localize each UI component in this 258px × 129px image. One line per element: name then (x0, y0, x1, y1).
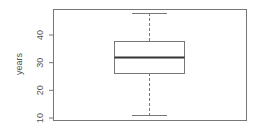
y-axis-label: years (14, 53, 24, 76)
y-tick-label-10: 10 (35, 113, 45, 123)
box-plot: 10 20 30 40 years (0, 0, 258, 129)
box-series-years (115, 13, 185, 116)
y-tick-label-30: 30 (35, 58, 45, 68)
y-tick-label-20: 20 (35, 85, 45, 95)
y-axis: 10 20 30 40 years (14, 30, 53, 123)
y-tick-label-40: 40 (35, 30, 45, 40)
